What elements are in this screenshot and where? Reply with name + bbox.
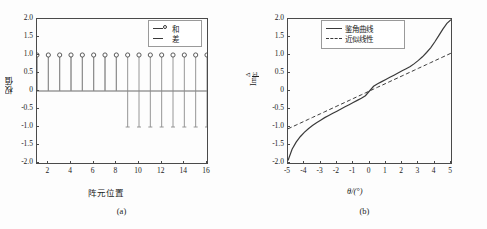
y-tick-label: -1.5 — [257, 140, 284, 148]
dashed-line-swatch-icon — [326, 34, 342, 42]
x-tick-mark — [417, 161, 418, 164]
caption-a: (a) — [0, 206, 243, 216]
y-tick-label: -1.0 — [6, 122, 33, 130]
y-tick-label: 1.0 — [6, 50, 33, 58]
x-tick-label: 12 — [152, 167, 170, 175]
legend-label-diff: 差 — [172, 33, 179, 44]
x-tick-mark — [70, 161, 71, 164]
x-tick-label: 4 — [425, 167, 443, 175]
x-tick-label: 14 — [174, 167, 192, 175]
y-tick-mark — [36, 90, 39, 91]
x-tick-label: 0 — [360, 167, 378, 175]
x-tick-mark — [287, 161, 288, 164]
x-tick-mark — [320, 161, 321, 164]
fraction-denominator: Σ — [252, 72, 259, 77]
y-tick-label: -0.5 — [6, 104, 33, 112]
y-tick-mark — [36, 144, 39, 145]
y-tick-label: 0 — [257, 86, 284, 94]
y-tick-label: -1.0 — [257, 122, 284, 130]
legend-item-linear: 近似线性 — [326, 33, 400, 43]
y-tick-mark — [287, 36, 290, 37]
x-tick-mark — [303, 161, 304, 164]
y-tick-mark — [287, 108, 290, 109]
x-axis-label-a: 阵元位置 — [88, 186, 124, 198]
y-tick-mark — [287, 144, 290, 145]
y-tick-label: -0.5 — [257, 104, 284, 112]
x-tick-mark — [206, 161, 207, 164]
x-tick-label: -2 — [327, 167, 345, 175]
x-tick-label: -5 — [278, 167, 296, 175]
x-tick-label: 5 — [441, 167, 459, 175]
x-tick-label: 6 — [84, 167, 102, 175]
x-tick-label: 4 — [61, 167, 79, 175]
y-tick-label: 0.5 — [6, 68, 33, 76]
y-tick-mark — [36, 18, 39, 19]
x-tick-label: 8 — [106, 167, 124, 175]
figure-container: -2.0-1.5-1.0-0.500.51.01.52.0 2468101214… — [0, 0, 487, 229]
x-tick-mark — [369, 161, 370, 164]
x-tick-label: 10 — [129, 167, 147, 175]
x-tick-mark — [115, 161, 116, 164]
subplot-a: -2.0-1.5-1.0-0.500.51.01.52.0 2468101214… — [0, 0, 243, 229]
y-axis-label-b: ImΔΣ — [245, 72, 259, 86]
x-tick-mark — [161, 161, 162, 164]
line-marker-swatch-icon — [153, 24, 169, 32]
y-tick-mark — [287, 54, 290, 55]
legend-item-curve: 鉴角曲线 — [326, 23, 400, 33]
x-tick-mark — [93, 161, 94, 164]
y-tick-mark — [287, 90, 290, 91]
caption-b: (b) — [243, 206, 486, 216]
x-axis-label-b: θ/(°) — [347, 186, 363, 196]
x-tick-mark — [352, 161, 353, 164]
y-tick-label: 1.5 — [6, 32, 33, 40]
y-tick-mark — [36, 162, 39, 163]
y-tick-label: 0.5 — [257, 68, 284, 76]
x-tick-label: 2 — [38, 167, 56, 175]
x-tick-mark — [434, 161, 435, 164]
y-axis-label-b-fraction: ΔΣ — [245, 72, 259, 77]
legend-a: 和 差 — [148, 20, 202, 47]
x-tick-mark — [401, 161, 402, 164]
y-tick-mark — [287, 18, 290, 19]
y-tick-mark — [36, 126, 39, 127]
y-axis-label-a: 权值 — [4, 76, 16, 94]
y-tick-mark — [287, 72, 290, 73]
y-tick-label: -2.0 — [6, 158, 33, 166]
legend-item-diff: 差 — [153, 33, 197, 43]
x-tick-mark — [450, 161, 451, 164]
x-tick-label: -4 — [294, 167, 312, 175]
y-axis-label-b-prefix: Im — [249, 77, 258, 86]
subplot-b: -2.0-1.5-1.0-0.500.51.01.52.0 -5-4-3-2-1… — [243, 0, 486, 229]
y-tick-label: 1.0 — [257, 50, 284, 58]
x-tick-mark — [47, 161, 48, 164]
y-tick-label: 1.5 — [257, 32, 284, 40]
solid-line-swatch-icon — [326, 24, 342, 32]
y-tick-label: -2.0 — [257, 158, 284, 166]
y-tick-mark — [36, 54, 39, 55]
x-tick-mark — [138, 161, 139, 164]
y-tick-mark — [36, 36, 39, 37]
y-tick-label: 2.0 — [257, 14, 284, 22]
legend-item-sum: 和 — [153, 23, 197, 33]
y-tick-mark — [287, 126, 290, 127]
legend-b: 鉴角曲线 近似线性 — [321, 20, 405, 49]
x-tick-mark — [385, 161, 386, 164]
x-tick-mark — [183, 161, 184, 164]
x-tick-label: -1 — [343, 167, 361, 175]
x-tick-mark — [336, 161, 337, 164]
x-tick-label: 3 — [408, 167, 426, 175]
y-tick-mark — [36, 72, 39, 73]
y-tick-label: 2.0 — [6, 14, 33, 22]
y-tick-label: -1.5 — [6, 140, 33, 148]
x-tick-label: 1 — [376, 167, 394, 175]
line-swatch-icon — [153, 34, 169, 42]
x-tick-label: 2 — [392, 167, 410, 175]
x-tick-label: -3 — [311, 167, 329, 175]
legend-label-linear: 近似线性 — [345, 33, 373, 44]
x-tick-label: 16 — [197, 167, 215, 175]
y-tick-mark — [36, 108, 39, 109]
